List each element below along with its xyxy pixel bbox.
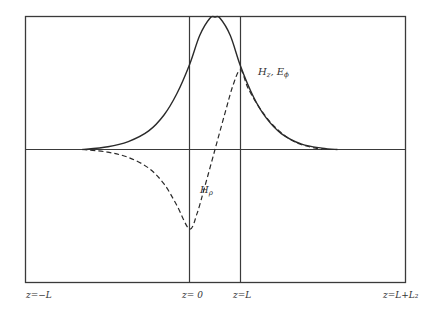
tick-label-z-0: z= 0 [181, 290, 203, 300]
tick-label-z-minus-L: z=−L [25, 290, 52, 300]
field-diagram: Hz, Eϕ Hρ z=−L z= 0 z=L z=L+L₂ [0, 0, 437, 315]
curve-hz-ephi [82, 16, 337, 149]
curve-label-hz-ephi: Hz, Eϕ [257, 66, 289, 79]
tick-label-z-L: z=L [232, 290, 251, 300]
curve-label-hrho: Hρ [199, 184, 214, 197]
tick-label-z-L-plus-L2: z=L+L₂ [382, 290, 419, 300]
